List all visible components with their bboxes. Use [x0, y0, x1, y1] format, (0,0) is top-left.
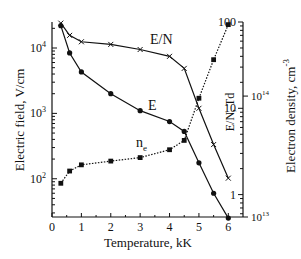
- point-ne: [182, 138, 187, 143]
- series-label-ne-sub: e: [143, 143, 147, 153]
- point-en: [182, 66, 187, 71]
- series-label-e: E: [148, 98, 157, 113]
- point-e: [108, 91, 113, 96]
- series-label-en: E/N: [150, 32, 173, 47]
- point-en: [196, 106, 201, 111]
- x-tick-label: 0: [49, 220, 55, 234]
- x-tick-label: 2: [108, 220, 114, 234]
- svg-text:Electron density, cm-3: Electron density, cm-3: [281, 59, 298, 173]
- point-e: [196, 160, 201, 165]
- series-label-ne-main: n: [136, 135, 143, 150]
- point-e: [67, 50, 72, 55]
- x-axis-label: Temperature, kK: [104, 235, 192, 250]
- ne-tick-label: 1014: [251, 89, 270, 102]
- point-en: [226, 176, 231, 181]
- right-outer-axis-label-sup: -3: [281, 59, 291, 67]
- en-tick-label: 1: [230, 188, 236, 202]
- right-outer-axis-label-group: Electron density, cm-3: [281, 59, 298, 173]
- x-tick-label: 1: [78, 220, 84, 234]
- series-label-ne: ne: [136, 135, 147, 153]
- point-e: [211, 191, 216, 196]
- point-e: [167, 119, 172, 124]
- series-line-en: [61, 23, 228, 178]
- point-ne: [167, 147, 172, 152]
- point-en: [67, 33, 72, 38]
- left-axis-label: Electric field, V/cm: [12, 69, 27, 172]
- left-tick-label: 104: [30, 40, 46, 55]
- point-ne: [79, 162, 84, 167]
- x-tick-label: 6: [225, 220, 231, 234]
- left-tick-label: 102: [30, 171, 46, 186]
- point-ne: [197, 96, 202, 101]
- point-ne: [58, 181, 63, 186]
- x-tick-label: 4: [167, 220, 173, 234]
- series-group: [58, 21, 231, 221]
- chart: 012345610210310411010010131014 Temperatu…: [0, 0, 301, 259]
- series-line-ne: [61, 25, 228, 184]
- right-outer-axis-label: Electron density, cm: [283, 67, 298, 173]
- left-tick-label: 103: [30, 105, 46, 120]
- ne-tick-label: 1013: [251, 210, 270, 223]
- point-e: [138, 108, 143, 113]
- point-ne: [226, 22, 231, 27]
- point-ne: [138, 155, 143, 160]
- x-tick-label: 3: [137, 220, 143, 234]
- point-e: [226, 216, 231, 221]
- x-tick-label: 5: [196, 220, 202, 234]
- point-ne: [108, 159, 113, 164]
- point-en: [211, 142, 216, 147]
- series-line-e: [61, 26, 228, 218]
- point-ne: [211, 57, 216, 62]
- point-e: [182, 129, 187, 134]
- point-e: [79, 69, 84, 74]
- point-ne: [67, 169, 72, 174]
- right-inner-axis-label: E/N, Td: [223, 93, 237, 131]
